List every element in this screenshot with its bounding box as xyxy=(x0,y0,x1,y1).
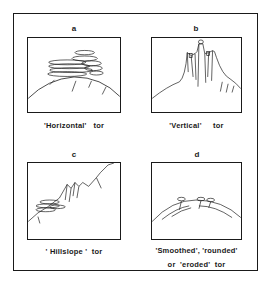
hillslope-tor-illustration xyxy=(28,163,120,239)
panel-a-label: a xyxy=(64,24,84,33)
vertical-tor-illustration xyxy=(152,38,241,112)
panel-b-caption: 'Vertical' tor xyxy=(151,121,242,130)
panel-b-vertical-tor xyxy=(151,37,242,113)
smoothed-tor-illustration xyxy=(152,163,241,239)
panel-d-caption-line1: 'Smoothed', 'rounded' xyxy=(151,246,242,255)
panel-a-horizontal-tor xyxy=(27,37,121,113)
panel-c-caption: ' Hillslope ' tor xyxy=(27,247,121,256)
panel-d-label: d xyxy=(187,150,207,159)
panel-a-caption: 'Horizontal' tor xyxy=(27,121,121,130)
panel-c-label: c xyxy=(64,150,84,159)
panel-d-caption-line2: or 'eroded' tor xyxy=(151,260,242,269)
panel-c-hillslope-tor xyxy=(27,162,121,240)
panel-b-label: b xyxy=(186,24,206,33)
horizontal-tor-illustration xyxy=(28,38,120,112)
panel-d-smoothed-tor xyxy=(151,162,242,240)
